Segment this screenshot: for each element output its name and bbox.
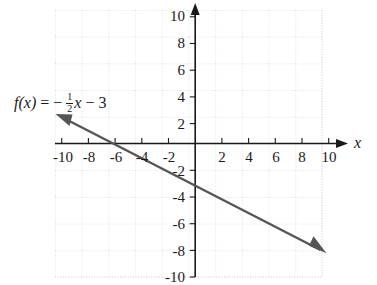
y-tick-label-10: 10 <box>150 9 185 24</box>
equals-sign: = <box>40 95 49 111</box>
y-tick-label--10: -10 <box>144 270 185 285</box>
x-tick-label--8: -8 <box>83 150 96 165</box>
x-axis-label: x <box>354 134 361 152</box>
y-tick-label-6: 6 <box>150 63 185 78</box>
function-equation-label: f(x) = − 1 2 x − 3 <box>14 92 106 114</box>
x-tick-label-2: 2 <box>218 150 226 165</box>
y-tick-label--4: -4 <box>147 190 185 205</box>
function-name: f(x) <box>14 95 36 111</box>
constant-term: 3 <box>98 95 106 111</box>
y-tick-label--8: -8 <box>147 244 185 259</box>
x-tick-label--10: -10 <box>53 150 73 165</box>
leading-minus-sign: − <box>53 95 62 111</box>
x-tick-label-4: 4 <box>245 150 253 165</box>
fraction-numerator: 1 <box>66 92 73 103</box>
x-tick-label-10: 10 <box>322 150 337 165</box>
variable-x: x <box>74 95 81 111</box>
y-tick-label--6: -6 <box>147 217 185 232</box>
y-tick-label-4: 4 <box>150 90 185 105</box>
x-tick-label-6: 6 <box>272 150 280 165</box>
one-half-fraction: 1 2 <box>66 92 73 114</box>
y-tick-label-2: 2 <box>150 117 185 132</box>
y-tick-label-8: 8 <box>150 36 185 51</box>
x-tick-label--6: -6 <box>110 150 123 165</box>
fraction-denominator: 2 <box>66 104 73 115</box>
subtraction-sign: − <box>85 95 94 111</box>
y-tick-label--2: -2 <box>147 164 185 179</box>
x-tick-label-8: 8 <box>298 150 306 165</box>
